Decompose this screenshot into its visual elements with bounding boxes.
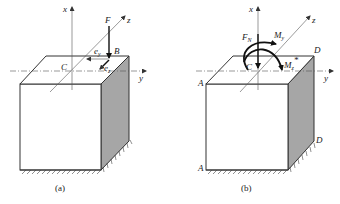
y-axis-label: y <box>138 73 143 83</box>
cube-front-face <box>206 84 288 170</box>
caption-a: (a) <box>55 183 65 193</box>
x-axis-label: x <box>248 4 253 14</box>
normal-force-label: FN <box>241 32 253 43</box>
panel-b: x y z FN My Mz* C A A D D (b) <box>196 4 333 193</box>
caption-b: (b) <box>241 183 252 193</box>
figure: x y z F ey ez B C (a) <box>0 0 340 204</box>
force-f-label: F <box>104 15 111 25</box>
z-axis-label: z <box>311 15 316 25</box>
moment-my-label: My <box>273 30 285 41</box>
point-b-label: B <box>114 46 120 56</box>
centroid-c-label: C <box>61 62 68 72</box>
corner-d-bottom-label: D <box>315 135 323 145</box>
cube-front-face <box>20 84 101 170</box>
y-axis-label: y <box>323 73 328 83</box>
z-axis-label: z <box>126 15 131 25</box>
corner-a-bottom-label: A <box>197 163 204 173</box>
corner-a-top-label: A <box>197 78 204 88</box>
ey-label: ey <box>94 46 101 57</box>
x-axis-label: x <box>62 4 67 14</box>
panel-a: x y z F ey ez B C (a) <box>10 4 146 193</box>
centroid-c-label: C <box>246 62 253 72</box>
corner-d-top-label: D <box>313 45 321 55</box>
